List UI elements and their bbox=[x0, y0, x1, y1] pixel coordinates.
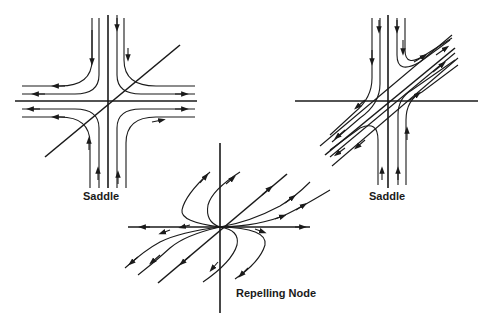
phase-portraits bbox=[0, 0, 488, 324]
saddle-2-portrait bbox=[295, 15, 478, 188]
saddle-2-label: Saddle bbox=[369, 190, 405, 202]
repelling-node-label: Repelling Node bbox=[236, 287, 316, 299]
saddle-1-portrait bbox=[15, 15, 197, 188]
saddle-1-label: Saddle bbox=[83, 190, 119, 202]
